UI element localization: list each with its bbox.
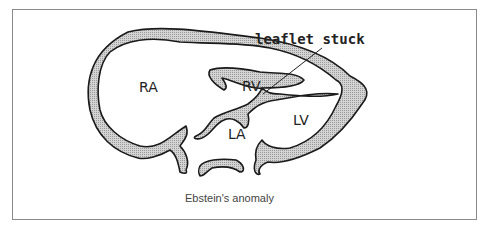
annotation-leaflet-stuck: leaflet stuck — [255, 31, 365, 47]
leaflet-crux — [194, 88, 338, 139]
label-lv: LV — [293, 112, 309, 128]
label-rv: RV — [242, 78, 261, 94]
label-ra: RA — [139, 79, 158, 95]
aortic-fragment — [199, 159, 244, 176]
heart-outer-wall — [88, 29, 367, 175]
label-la: LA — [228, 126, 246, 142]
diagram-caption: Ebstein's anomaly — [185, 192, 274, 204]
